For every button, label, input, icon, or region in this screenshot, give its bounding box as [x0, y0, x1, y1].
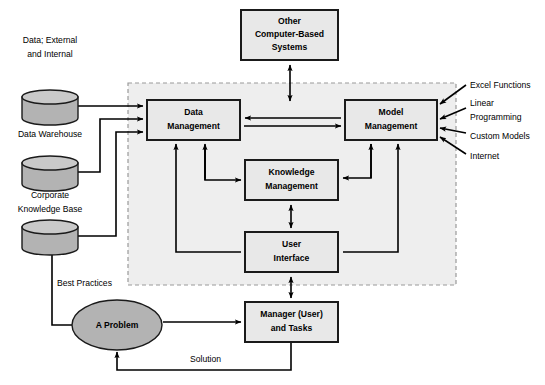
box-user-interface: User Interface — [245, 232, 338, 272]
corporate-kb-label-line1: Corporate — [31, 190, 69, 200]
data-management-label-line2: Management — [167, 121, 220, 131]
cylinder-best-practices-store — [22, 220, 78, 255]
data-warehouse-caption-line2: and Internal — [27, 49, 72, 59]
other-systems-label-line3: Systems — [272, 42, 308, 52]
model-management-label-line2: Management — [365, 121, 418, 131]
box-manager-and-tasks: Manager (User) and Tasks — [245, 302, 338, 342]
corporate-kb-label-line2: Knowledge Base — [18, 204, 83, 214]
data-warehouse-caption-line1: Data; External — [23, 35, 78, 45]
cylinder-data-warehouse — [22, 90, 78, 125]
a-problem-label: A Problem — [96, 320, 139, 330]
dss-architecture-diagram: Data; External and Internal Data Warehou… — [0, 0, 545, 385]
knowledge-management-label-line2: Management — [265, 181, 318, 191]
other-systems-label-line1: Other — [278, 16, 302, 26]
flow-label-best-practices: Best Practices — [57, 278, 112, 288]
model-management-label-line1: Model — [379, 107, 404, 117]
external-label-internet: Internet — [470, 151, 500, 161]
box-model-management: Model Management — [345, 100, 437, 140]
knowledge-management-label-line1: Knowledge — [269, 167, 315, 177]
ellipse-a-problem: A Problem — [72, 300, 162, 350]
user-interface-label-line1: User — [282, 239, 302, 249]
cylinder-corporate-knowledge-base — [22, 156, 78, 191]
external-inputs-group: Excel Functions Linear Programming Custo… — [470, 80, 531, 161]
external-label-custom-models: Custom Models — [470, 131, 530, 141]
external-label-linear-line1: Linear — [470, 98, 494, 108]
box-data-management: Data Management — [147, 100, 240, 140]
data-management-label-line1: Data — [184, 107, 203, 117]
user-interface-label-line2: Interface — [274, 253, 310, 263]
other-systems-label-line2: Computer-Based — [255, 29, 324, 39]
diagram-canvas: Data; External and Internal Data Warehou… — [0, 0, 545, 385]
manager-tasks-label-line2: and Tasks — [271, 323, 313, 333]
external-label-linear-line2: Programming — [470, 112, 522, 122]
box-other-computer-based-systems: Other Computer-Based Systems — [241, 10, 338, 60]
manager-tasks-label-line1: Manager (User) — [260, 309, 323, 319]
external-label-excel-functions: Excel Functions — [470, 80, 531, 90]
box-knowledge-management: Knowledge Management — [245, 160, 338, 200]
cylinder-group — [22, 90, 78, 255]
data-warehouse-label: Data Warehouse — [18, 129, 82, 139]
flow-label-solution: Solution — [190, 354, 221, 364]
